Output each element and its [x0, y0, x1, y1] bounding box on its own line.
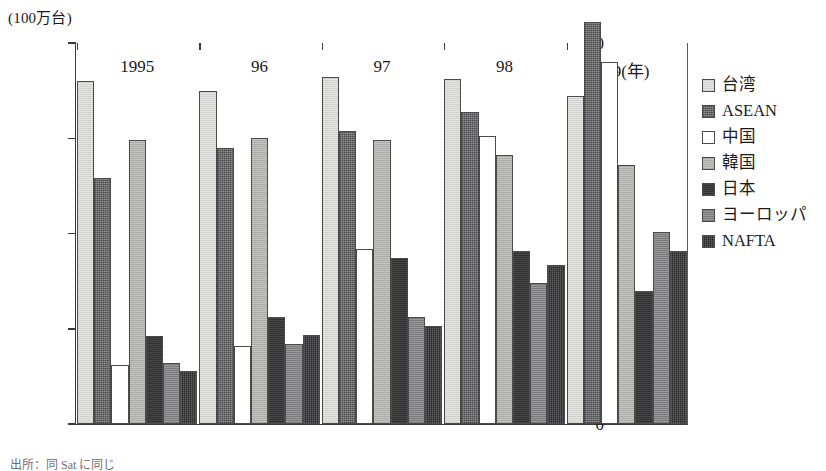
bar-europe-97	[408, 317, 425, 424]
x-axis-tick	[444, 43, 445, 50]
x-axis-tick	[199, 43, 200, 50]
bar-europe-96	[285, 344, 302, 424]
bar-japan-98	[513, 251, 530, 424]
legend-swatch-asean	[702, 105, 715, 118]
legend-item-nafta: NAFTA	[702, 228, 822, 254]
chart-legend: 台湾ASEAN中国韓国日本ヨーロッパNAFTA	[702, 72, 822, 254]
bar-korea-99	[618, 165, 635, 424]
legend-label: 日本	[722, 181, 756, 198]
bar-asean-96	[217, 148, 234, 424]
legend-swatch-taiwan	[702, 79, 715, 92]
bar-korea-1995	[129, 140, 146, 424]
source-note: 出所：同 Sat に同じ	[10, 455, 115, 471]
bar-korea-97	[373, 140, 390, 424]
bar-japan-1995	[146, 336, 163, 424]
bar-europe-98	[530, 283, 547, 424]
y-axis-tick	[68, 233, 76, 235]
x-axis-tick-label: 97	[374, 57, 391, 77]
plot-right-rule	[687, 43, 688, 425]
legend-swatch-japan	[702, 183, 715, 196]
bar-nafta-99	[670, 251, 687, 424]
legend-label: 中国	[722, 129, 756, 146]
bar-taiwan-97	[322, 77, 339, 424]
legend-item-korea: 韓国	[702, 150, 822, 176]
bar-asean-1995	[94, 178, 111, 424]
bar-japan-96	[268, 317, 285, 424]
bar-japan-99	[635, 291, 652, 424]
legend-item-taiwan: 台湾	[702, 72, 822, 98]
bar-asean-99	[584, 22, 601, 424]
bar-taiwan-98	[444, 79, 461, 424]
x-axis-tick-label: 1995	[120, 57, 154, 77]
legend-label: ASEAN	[722, 103, 777, 120]
bar-china-96	[234, 346, 251, 424]
bar-asean-97	[339, 131, 356, 424]
bar-nafta-97	[425, 326, 442, 424]
legend-swatch-europe	[702, 209, 715, 222]
x-axis-tick	[567, 43, 568, 50]
legend-item-china: 中国	[702, 124, 822, 150]
bar-china-97	[356, 249, 373, 424]
bar-taiwan-96	[199, 91, 216, 424]
y-axis-tick	[68, 42, 76, 44]
legend-item-asean: ASEAN	[702, 98, 822, 124]
bar-korea-98	[496, 155, 513, 424]
bar-china-99	[601, 62, 618, 424]
legend-swatch-china	[702, 131, 715, 144]
bar-europe-99	[653, 232, 670, 424]
bar-nafta-1995	[180, 371, 197, 424]
legend-swatch-nafta	[702, 235, 715, 248]
bar-nafta-98	[547, 265, 564, 424]
plot-area: 20151050199596979899(年)	[75, 43, 688, 425]
y-axis-tick	[68, 423, 76, 425]
x-axis-tick-label: 98	[496, 57, 513, 77]
x-axis-tick	[322, 43, 323, 50]
x-axis-tick	[77, 43, 78, 50]
legend-label: NAFTA	[722, 233, 776, 250]
y-axis-tick	[68, 328, 76, 330]
bar-taiwan-99	[567, 96, 584, 424]
legend-label: ヨーロッパ	[722, 207, 807, 224]
bar-japan-97	[391, 258, 408, 424]
bar-korea-96	[251, 138, 268, 424]
legend-item-europe: ヨーロッパ	[702, 202, 822, 228]
x-axis-tick-label: 96	[251, 57, 268, 77]
bar-china-1995	[111, 365, 128, 424]
legend-label: 韓国	[722, 155, 756, 172]
legend-item-japan: 日本	[702, 176, 822, 202]
y-axis-unit-caption: (100万台)	[8, 6, 72, 27]
bar-china-98	[479, 136, 496, 424]
legend-swatch-korea	[702, 157, 715, 170]
bar-nafta-96	[303, 335, 320, 424]
bar-asean-98	[461, 112, 478, 424]
bar-europe-1995	[163, 363, 180, 424]
bar-chart-figure: (100万台) 20151050199596979899(年) 台湾ASEAN中…	[0, 0, 826, 471]
y-axis-tick	[68, 138, 76, 140]
legend-label: 台湾	[722, 77, 756, 94]
bar-taiwan-1995	[77, 81, 94, 424]
